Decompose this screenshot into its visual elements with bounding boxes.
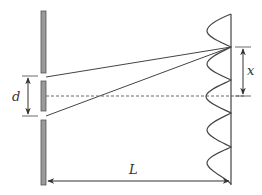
label-x: x (247, 63, 255, 78)
label-L: L (128, 162, 138, 177)
barrier-bottom-segment (41, 120, 46, 185)
x-dimension: x (235, 47, 255, 96)
intensity-pattern (206, 14, 231, 184)
L-dimension: L (48, 162, 229, 181)
ray-upper-slit (46, 47, 231, 77)
barrier (41, 11, 46, 185)
barrier-top-segment (41, 11, 46, 73)
ray-lower-slit (46, 47, 231, 116)
double-slit-diagram: x d L (0, 0, 262, 195)
barrier-middle-segment (41, 81, 46, 111)
label-d: d (12, 89, 20, 104)
d-dimension: d (12, 76, 38, 116)
